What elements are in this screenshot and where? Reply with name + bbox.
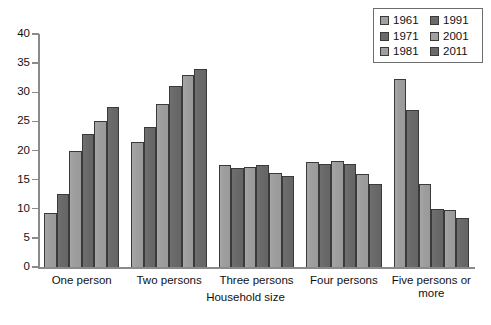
bar-1961	[306, 162, 319, 267]
legend: 196119911971200119812011	[373, 8, 483, 63]
x-axis-category-label: One person	[38, 274, 125, 287]
plot-area	[38, 34, 475, 267]
y-axis-tick-label: 10	[0, 203, 30, 215]
bar-1981	[419, 184, 432, 267]
y-axis-tick-label: 30	[0, 86, 30, 98]
bar-2001	[94, 121, 107, 267]
bar-1991	[431, 209, 444, 267]
bar-2001	[269, 173, 282, 267]
y-axis-tick-label: 35	[0, 57, 30, 69]
bar-1961	[394, 79, 407, 267]
bar-2001	[182, 75, 195, 267]
bar-group	[38, 34, 125, 267]
bar-1971	[231, 168, 244, 267]
legend-swatch-icon	[380, 47, 389, 56]
bar-1961	[219, 165, 232, 267]
y-axis-tick-label: 20	[0, 145, 30, 157]
bar-1961	[44, 213, 57, 267]
bar-2011	[456, 218, 469, 268]
bar-2001	[444, 210, 457, 267]
y-axis-tick-label: 15	[0, 174, 30, 186]
legend-item-2001: 2001	[430, 31, 477, 43]
bar-group	[388, 34, 475, 267]
bar-2011	[194, 69, 207, 267]
bar-1991	[344, 164, 357, 267]
bar-2011	[107, 107, 120, 267]
bar-2011	[369, 184, 382, 267]
bar-1981	[156, 104, 169, 267]
legend-item-1981: 1981	[380, 46, 427, 58]
bar-2011	[282, 176, 295, 267]
bar-1971	[57, 194, 70, 267]
legend-label: 2011	[443, 46, 468, 58]
legend-label: 1961	[393, 15, 419, 27]
legend-item-1991: 1991	[430, 15, 477, 27]
x-axis-category-label: Three persons	[213, 274, 300, 287]
legend-swatch-icon	[430, 16, 439, 25]
legend-label: 1991	[443, 15, 469, 27]
x-axis-category-label: Two persons	[125, 274, 212, 287]
legend-swatch-icon	[430, 47, 439, 56]
bar-1991	[256, 165, 269, 267]
y-axis-tick-label: 40	[0, 28, 30, 40]
y-axis-tick-label: 25	[0, 115, 30, 127]
bar-1991	[169, 86, 182, 267]
bar-group-bars	[213, 34, 300, 267]
legend-swatch-icon	[380, 16, 389, 25]
y-axis-tick-label: 0	[0, 261, 30, 273]
bar-group	[300, 34, 387, 267]
legend-item-1961: 1961	[380, 15, 427, 27]
bar-1991	[82, 134, 95, 267]
bar-group-bars	[38, 34, 125, 267]
bar-group-bars	[125, 34, 212, 267]
bar-group	[213, 34, 300, 267]
x-axis-line	[38, 267, 475, 269]
legend-swatch-icon	[430, 32, 439, 41]
bar-2001	[356, 174, 369, 267]
legend-label: 1971	[393, 31, 419, 43]
bar-chart: 0510152025303540 One personTwo personsTh…	[0, 0, 491, 325]
legend-label: 2001	[443, 31, 469, 43]
bar-1961	[131, 142, 144, 267]
legend-swatch-icon	[380, 32, 389, 41]
bar-1971	[406, 110, 419, 267]
x-axis-title: Household size	[0, 291, 491, 303]
bar-1981	[69, 151, 82, 268]
legend-item-1971: 1971	[380, 31, 427, 43]
bar-1981	[331, 161, 344, 267]
bar-1971	[319, 164, 332, 267]
bar-group	[125, 34, 212, 267]
y-axis-tick-label: 5	[0, 232, 30, 244]
legend-item-2011: 2011	[430, 46, 477, 58]
x-axis-category-label: Four persons	[300, 274, 387, 287]
bar-group-bars	[388, 34, 475, 267]
legend-label: 1981	[393, 46, 419, 58]
bar-1981	[244, 167, 257, 267]
bar-group-bars	[300, 34, 387, 267]
bar-1971	[144, 127, 157, 267]
